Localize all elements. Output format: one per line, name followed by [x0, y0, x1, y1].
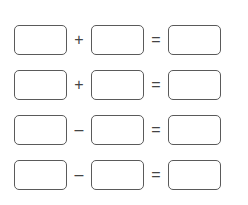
equals-sign: = — [144, 71, 168, 99]
result-box[interactable] — [168, 25, 221, 55]
operand-box-1[interactable] — [14, 25, 67, 55]
plus-sign: + — [67, 71, 91, 99]
operand-box-1[interactable] — [14, 115, 67, 145]
operand-box-1[interactable] — [14, 70, 67, 100]
minus-sign: – — [67, 116, 91, 144]
equals-sign: = — [144, 116, 168, 144]
equation-row-3: – = — [14, 115, 221, 145]
result-box[interactable] — [168, 160, 221, 190]
equation-row-1: + = — [14, 25, 221, 55]
equation-row-4: – = — [14, 160, 221, 190]
operand-box-1[interactable] — [14, 160, 67, 190]
operand-box-2[interactable] — [91, 70, 144, 100]
operand-box-2[interactable] — [91, 160, 144, 190]
result-box[interactable] — [168, 70, 221, 100]
operand-box-2[interactable] — [91, 115, 144, 145]
equals-sign: = — [144, 161, 168, 189]
equals-sign: = — [144, 26, 168, 54]
result-box[interactable] — [168, 115, 221, 145]
equation-row-2: + = — [14, 70, 221, 100]
operand-box-2[interactable] — [91, 25, 144, 55]
minus-sign: – — [67, 161, 91, 189]
plus-sign: + — [67, 26, 91, 54]
